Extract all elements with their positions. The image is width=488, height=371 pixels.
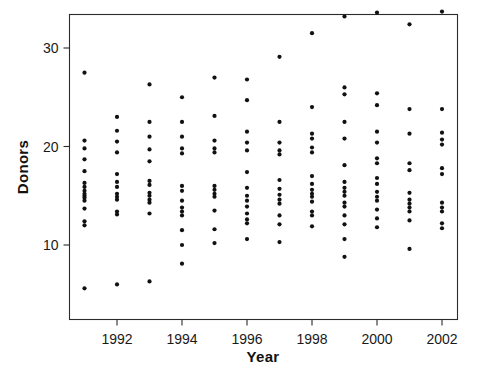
data-point bbox=[277, 140, 281, 144]
data-point bbox=[407, 202, 411, 206]
data-point bbox=[245, 221, 249, 225]
data-point bbox=[245, 98, 249, 102]
data-point bbox=[375, 130, 379, 134]
x-tick-label: 2002 bbox=[426, 331, 457, 347]
data-point bbox=[310, 209, 314, 213]
data-point bbox=[310, 145, 314, 149]
data-point bbox=[310, 31, 314, 35]
data-point bbox=[407, 132, 411, 136]
data-point bbox=[407, 168, 411, 172]
data-point bbox=[180, 243, 184, 247]
data-point bbox=[375, 156, 379, 160]
data-point bbox=[147, 279, 151, 283]
data-point bbox=[375, 199, 379, 203]
y-tick-label: 10 bbox=[43, 237, 59, 253]
data-point bbox=[375, 225, 379, 229]
x-tick-label: 1992 bbox=[101, 331, 132, 347]
data-point bbox=[245, 199, 249, 203]
data-point bbox=[310, 105, 314, 109]
data-point bbox=[310, 174, 314, 178]
data-point bbox=[277, 240, 281, 244]
data-point bbox=[342, 201, 346, 205]
data-point bbox=[277, 222, 281, 226]
data-point bbox=[82, 146, 86, 150]
data-point bbox=[440, 138, 444, 142]
data-point bbox=[277, 198, 281, 202]
data-point bbox=[440, 201, 444, 205]
data-point bbox=[310, 195, 314, 199]
data-point bbox=[342, 137, 346, 141]
data-point bbox=[180, 95, 184, 99]
data-point bbox=[147, 82, 151, 86]
data-point bbox=[310, 182, 314, 186]
data-point bbox=[277, 202, 281, 206]
data-point bbox=[440, 107, 444, 111]
data-point bbox=[82, 157, 86, 161]
data-point bbox=[212, 241, 216, 245]
data-point bbox=[245, 77, 249, 81]
y-tick-label: 30 bbox=[43, 40, 59, 56]
data-point bbox=[375, 10, 379, 14]
data-point bbox=[277, 187, 281, 191]
data-point bbox=[440, 209, 444, 213]
data-point bbox=[310, 132, 314, 136]
data-point bbox=[147, 211, 151, 215]
data-point bbox=[342, 255, 346, 259]
y-axis-label: Donors bbox=[14, 140, 31, 194]
data-point bbox=[277, 213, 281, 217]
data-point bbox=[147, 194, 151, 198]
data-point bbox=[440, 226, 444, 230]
data-point bbox=[147, 179, 151, 183]
data-point bbox=[82, 181, 86, 185]
data-point bbox=[147, 120, 151, 124]
data-point bbox=[440, 205, 444, 209]
data-point bbox=[115, 212, 119, 216]
data-point bbox=[82, 71, 86, 75]
data-point bbox=[277, 152, 281, 156]
data-point bbox=[115, 115, 119, 119]
data-point bbox=[180, 120, 184, 124]
y-tick-label: 20 bbox=[43, 139, 59, 155]
data-point bbox=[180, 205, 184, 209]
data-point bbox=[115, 139, 119, 143]
data-point bbox=[407, 107, 411, 111]
data-point bbox=[342, 204, 346, 208]
data-point bbox=[82, 169, 86, 173]
data-point bbox=[180, 151, 184, 155]
data-point bbox=[115, 180, 119, 184]
data-point bbox=[310, 188, 314, 192]
data-point bbox=[115, 282, 119, 286]
data-point bbox=[375, 216, 379, 220]
data-point bbox=[407, 205, 411, 209]
data-point bbox=[277, 120, 281, 124]
data-point bbox=[180, 199, 184, 203]
data-point bbox=[82, 206, 86, 210]
x-axis-label: Year bbox=[247, 348, 280, 365]
x-tick-label: 2000 bbox=[361, 331, 392, 347]
data-point bbox=[440, 166, 444, 170]
data-point bbox=[82, 199, 86, 203]
data-point bbox=[147, 183, 151, 187]
data-point bbox=[180, 209, 184, 213]
scatter-plot-figure: 102030 199219941996199820002002 Donors Y… bbox=[0, 0, 488, 371]
data-point bbox=[277, 148, 281, 152]
data-point bbox=[212, 227, 216, 231]
data-point bbox=[115, 185, 119, 189]
data-point bbox=[342, 120, 346, 124]
data-point bbox=[277, 193, 281, 197]
data-point bbox=[342, 180, 346, 184]
data-point bbox=[342, 92, 346, 96]
data-point bbox=[212, 184, 216, 188]
data-point bbox=[375, 161, 379, 165]
data-point bbox=[180, 213, 184, 217]
data-point bbox=[310, 150, 314, 154]
x-tick-label: 1994 bbox=[166, 331, 197, 347]
plot-area-frame bbox=[70, 15, 458, 320]
data-point bbox=[440, 131, 444, 135]
data-point bbox=[407, 198, 411, 202]
data-point bbox=[375, 91, 379, 95]
data-point bbox=[82, 219, 86, 223]
data-point bbox=[147, 159, 151, 163]
data-point bbox=[342, 14, 346, 18]
data-point bbox=[212, 146, 216, 150]
